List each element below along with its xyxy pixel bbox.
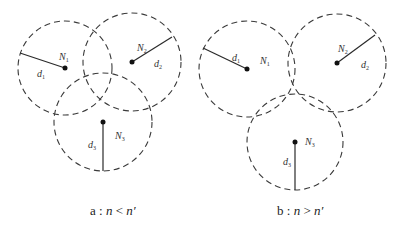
- radius-label-d2: d2: [361, 59, 369, 71]
- diagram-canvas: N1 d1 N2 d2 N3 d3 a : n < n′ d1 N1 N2 d2…: [0, 0, 399, 227]
- radius-line-d1: [203, 48, 247, 69]
- radius-label-d2: d2: [154, 58, 162, 70]
- panel-a: N1 d1 N2 d2 N3 d3 a : n < n′: [18, 13, 181, 218]
- radius-label-d1: d1: [37, 68, 45, 80]
- node-label-n3: N3: [114, 130, 125, 142]
- node-label-n2: N2: [337, 43, 348, 55]
- node-dot-n2: [335, 61, 340, 66]
- node-dot-n1: [63, 66, 68, 71]
- radius-label-d3: d3: [283, 156, 291, 168]
- radius-label-d1: d1: [232, 52, 240, 64]
- node-dot-n1: [245, 67, 250, 72]
- radius-label-d3: d3: [88, 139, 96, 151]
- caption-a: a : n < n′: [90, 203, 136, 218]
- node-dot-n3: [101, 120, 106, 125]
- panel-b: d1 N1 N2 d2 N3 d3 b : n > n′: [199, 14, 386, 218]
- node-label-n3: N3: [304, 136, 315, 148]
- node-label-n1: N1: [259, 55, 270, 67]
- node-dot-n3: [293, 140, 298, 145]
- node-label-n1: N1: [58, 51, 69, 63]
- caption-b: b : n > n′: [277, 203, 323, 218]
- node-label-n2: N2: [136, 42, 147, 54]
- node-dot-n2: [130, 60, 135, 65]
